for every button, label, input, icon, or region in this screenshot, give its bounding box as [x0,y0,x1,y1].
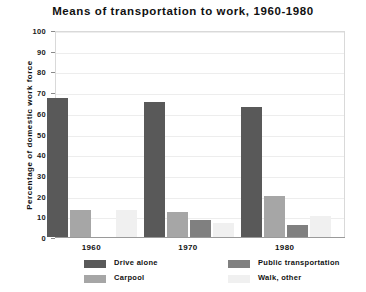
bar-1980-drive-alone [241,107,262,237]
legend-label: Carpool [114,273,144,282]
gridline [56,177,344,178]
bar-1960-drive-alone [47,98,68,237]
plot-area [55,31,345,238]
gridline [56,32,344,33]
y-axis-tick-label: 80 [0,68,46,77]
y-axis-tick-label: 50 [0,131,46,140]
legend-swatch-icon [84,260,106,268]
y-axis-tick-label: 70 [0,89,46,98]
y-axis-tick-label: 20 [0,193,46,202]
bar-1980-carpool [264,196,285,237]
x-axis-tick-label-1970: 1970 [153,243,223,252]
legend-swatch-icon [228,275,250,283]
bar-1980-public-transportation [287,225,308,237]
bar-1960-walk-other [116,210,137,237]
chart-container: Means of transportation to work, 1960-19… [0,0,366,292]
bar-1970-public-transportation [190,220,211,237]
legend-label: Public transportation [258,258,340,267]
x-axis-tick-label-1980: 1980 [250,243,320,252]
gridline [56,218,344,219]
y-axis-tick-label: 90 [0,48,46,57]
y-axis-tick-label: 100 [0,27,46,36]
bar-1960-carpool [70,210,91,237]
gridline [56,94,344,95]
y-axis-tick-mark [51,238,55,239]
gridline [56,73,344,74]
gridline [56,53,344,54]
y-axis-tick-label: 0 [0,234,46,243]
gridline [56,198,344,199]
y-axis-tick-label: 10 [0,213,46,222]
bar-1970-walk-other [213,223,234,237]
gridline [56,115,344,116]
legend-label: Drive alone [114,258,158,267]
x-axis-baseline [55,237,345,238]
bar-1970-carpool [167,212,188,237]
bar-1970-drive-alone [144,102,165,237]
chart-legend: Drive alonePublic transportationCarpoolW… [0,256,366,290]
y-axis-tick-label: 30 [0,172,46,181]
legend-swatch-icon [228,260,250,268]
legend-label: Walk, other [258,273,301,282]
gridline [56,156,344,157]
y-axis-tick-label: 60 [0,110,46,119]
chart-title: Means of transportation to work, 1960-19… [0,5,366,17]
y-axis-tick-label: 40 [0,151,46,160]
x-axis-tick-label-1960: 1960 [56,243,126,252]
gridline [56,136,344,137]
bar-1980-walk-other [310,216,331,237]
legend-swatch-icon [84,275,106,283]
